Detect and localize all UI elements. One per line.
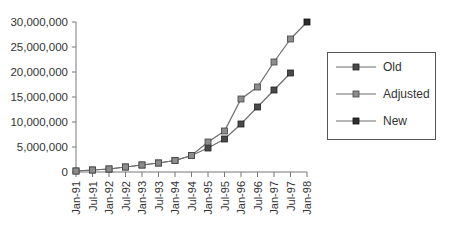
data-point-marker [288, 36, 294, 42]
data-point-marker [139, 162, 145, 168]
y-tick-label: 0 [62, 166, 68, 178]
x-tick-label: Jul-94 [186, 181, 198, 211]
data-point-marker [123, 164, 129, 170]
y-tick-label: 10,000,000 [10, 116, 68, 128]
series-layer [73, 19, 310, 174]
data-point-marker [90, 167, 96, 173]
line-chart: 05,000,00010,000,00015,000,00020,000,000… [0, 0, 456, 229]
data-point-marker [238, 121, 244, 127]
data-point-marker [271, 87, 277, 93]
data-point-marker [255, 84, 261, 90]
x-tick-label: Jul-96 [252, 181, 264, 211]
legend-marker-icon [353, 91, 359, 97]
legend-marker-icon [353, 118, 359, 124]
legend-marker-icon [353, 64, 359, 70]
y-tick-label: 30,000,000 [10, 16, 68, 28]
x-tick-label: Jul-92 [120, 181, 132, 211]
legend-label: Old [383, 60, 402, 74]
data-point-marker [205, 139, 211, 145]
data-point-marker [189, 153, 195, 159]
x-tick-label: Jul-91 [87, 181, 99, 211]
data-point-marker [172, 158, 178, 164]
legend: OldAdjustedNew [328, 53, 436, 140]
data-point-marker [288, 70, 294, 76]
x-tick-label: Jul-95 [219, 181, 231, 211]
legend-label: Adjusted [383, 87, 430, 101]
x-tick-label: Jul-93 [153, 181, 165, 211]
x-tick-label: Jan-92 [103, 181, 115, 215]
data-point-marker [304, 19, 310, 25]
x-tick-label: Jan-91 [70, 181, 82, 215]
y-axis: 05,000,00010,000,00015,000,00020,000,000… [10, 16, 76, 178]
data-point-marker [205, 145, 211, 151]
data-point-marker [156, 160, 162, 166]
x-tick-label: Jul-97 [285, 181, 297, 211]
x-tick-label: Jan-94 [169, 181, 181, 215]
data-point-marker [106, 166, 112, 172]
legend-label: New [383, 114, 407, 128]
data-point-marker [238, 96, 244, 102]
data-point-marker [222, 128, 228, 134]
x-tick-label: Jan-98 [301, 181, 313, 215]
data-point-marker [73, 168, 79, 174]
y-tick-label: 25,000,000 [10, 41, 68, 53]
y-tick-label: 15,000,000 [10, 91, 68, 103]
data-point-marker [222, 136, 228, 142]
y-tick-label: 20,000,000 [10, 66, 68, 78]
x-tick-label: Jan-95 [202, 181, 214, 215]
x-tick-label: Jan-93 [136, 181, 148, 215]
x-tick-label: Jan-96 [235, 181, 247, 215]
data-point-marker [271, 59, 277, 65]
x-tick-label: Jan-97 [268, 181, 280, 215]
data-point-marker [255, 104, 261, 110]
y-tick-label: 5,000,000 [17, 141, 68, 153]
x-axis: Jan-91Jul-91Jan-92Jul-92Jan-93Jul-93Jan-… [70, 172, 313, 215]
